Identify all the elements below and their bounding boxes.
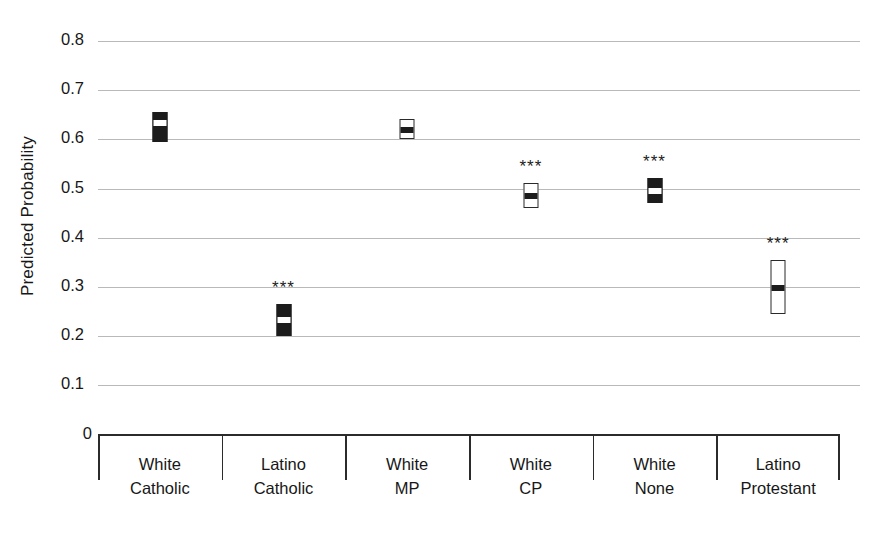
x-axis-category-label: WhiteNone xyxy=(633,452,675,500)
gridline xyxy=(98,41,860,42)
gridline xyxy=(98,238,860,239)
data-point-marker xyxy=(400,119,415,140)
y-axis-tick-label: 0.6 xyxy=(32,128,84,147)
x-axis-category-label-line: Catholic xyxy=(254,476,314,500)
gridline xyxy=(98,139,860,140)
plot-area: 0.80.70.60.50.40.30.20.1************ xyxy=(98,30,860,440)
x-axis-category-label: WhiteMP xyxy=(386,452,428,500)
x-axis-category-label-line: White xyxy=(510,452,552,476)
point-estimate-band xyxy=(648,188,661,194)
y-axis-tick-label: 0.7 xyxy=(32,79,84,98)
point-estimate-band xyxy=(277,317,290,323)
point-estimate-band xyxy=(153,120,166,126)
x-axis-category-label-line: White xyxy=(130,452,190,476)
x-axis-category-label-line: White xyxy=(386,452,428,476)
x-axis-category-label-line: CP xyxy=(510,476,552,500)
x-axis-category-label: WhiteCP xyxy=(510,452,552,500)
gridline xyxy=(98,287,860,288)
data-point-marker xyxy=(276,304,291,336)
data-point-marker xyxy=(523,183,538,209)
y-axis-tick-label: 0.4 xyxy=(32,227,84,246)
significance-asterisks: *** xyxy=(519,157,542,177)
gridline xyxy=(98,189,860,190)
gridline xyxy=(98,336,860,337)
gridline xyxy=(98,385,860,386)
x-axis-category-label-line: Protestant xyxy=(741,476,816,500)
y-axis-tick-label: 0.5 xyxy=(32,178,84,197)
y-axis-tick-label: 0.2 xyxy=(32,325,84,344)
point-estimate-band xyxy=(524,193,537,199)
x-axis-category-label-line: Latino xyxy=(741,452,816,476)
y-axis-title: Predicted Probability xyxy=(18,66,38,366)
x-axis-category-label-line: Catholic xyxy=(130,476,190,500)
significance-asterisks: *** xyxy=(643,152,666,172)
x-axis-category-label: LatinoProtestant xyxy=(741,452,816,500)
data-point-marker xyxy=(771,260,786,314)
x-axis-category-label: WhiteCatholic xyxy=(130,452,190,500)
x-axis-category-label: LatinoCatholic xyxy=(254,452,314,500)
y-axis-tick-zero: 0 xyxy=(40,424,92,443)
y-axis-tick-label: 0.8 xyxy=(32,30,84,49)
gridline xyxy=(98,90,860,91)
x-axis-category-label-line: None xyxy=(633,476,675,500)
y-axis-tick-label: 0.3 xyxy=(32,276,84,295)
x-axis-category-label-line: White xyxy=(633,452,675,476)
point-estimate-band xyxy=(772,285,785,291)
data-point-marker xyxy=(152,112,167,142)
significance-asterisks: *** xyxy=(272,278,295,298)
x-axis-category-label-line: MP xyxy=(386,476,428,500)
y-axis-tick-label: 0.1 xyxy=(32,374,84,393)
y-axis-tick-zero-label: 0 xyxy=(83,424,92,442)
x-axis-category-label-line: Latino xyxy=(254,452,314,476)
chart-figure: Predicted Probability 0.80.70.60.50.40.3… xyxy=(0,0,874,535)
data-point-marker xyxy=(647,178,662,204)
significance-asterisks: *** xyxy=(767,234,790,254)
x-axis-labels: WhiteCatholicLatinoCatholicWhiteMPWhiteC… xyxy=(98,452,840,522)
point-estimate-band xyxy=(401,127,414,133)
